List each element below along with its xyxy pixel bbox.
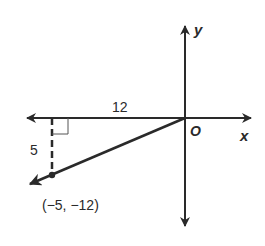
y-axis-label: y [193, 21, 203, 38]
vertical-length-label: 5 [30, 142, 38, 158]
right-angle-marker [52, 118, 68, 134]
point-label: (−5, −12) [42, 197, 99, 213]
diagram-canvas: 12 5 O x y (−5, −12) [0, 0, 265, 246]
x-axis-label: x [239, 127, 249, 144]
horizontal-length-label: 12 [112, 99, 128, 115]
origin-label: O [190, 123, 201, 139]
point-marker [49, 172, 55, 178]
